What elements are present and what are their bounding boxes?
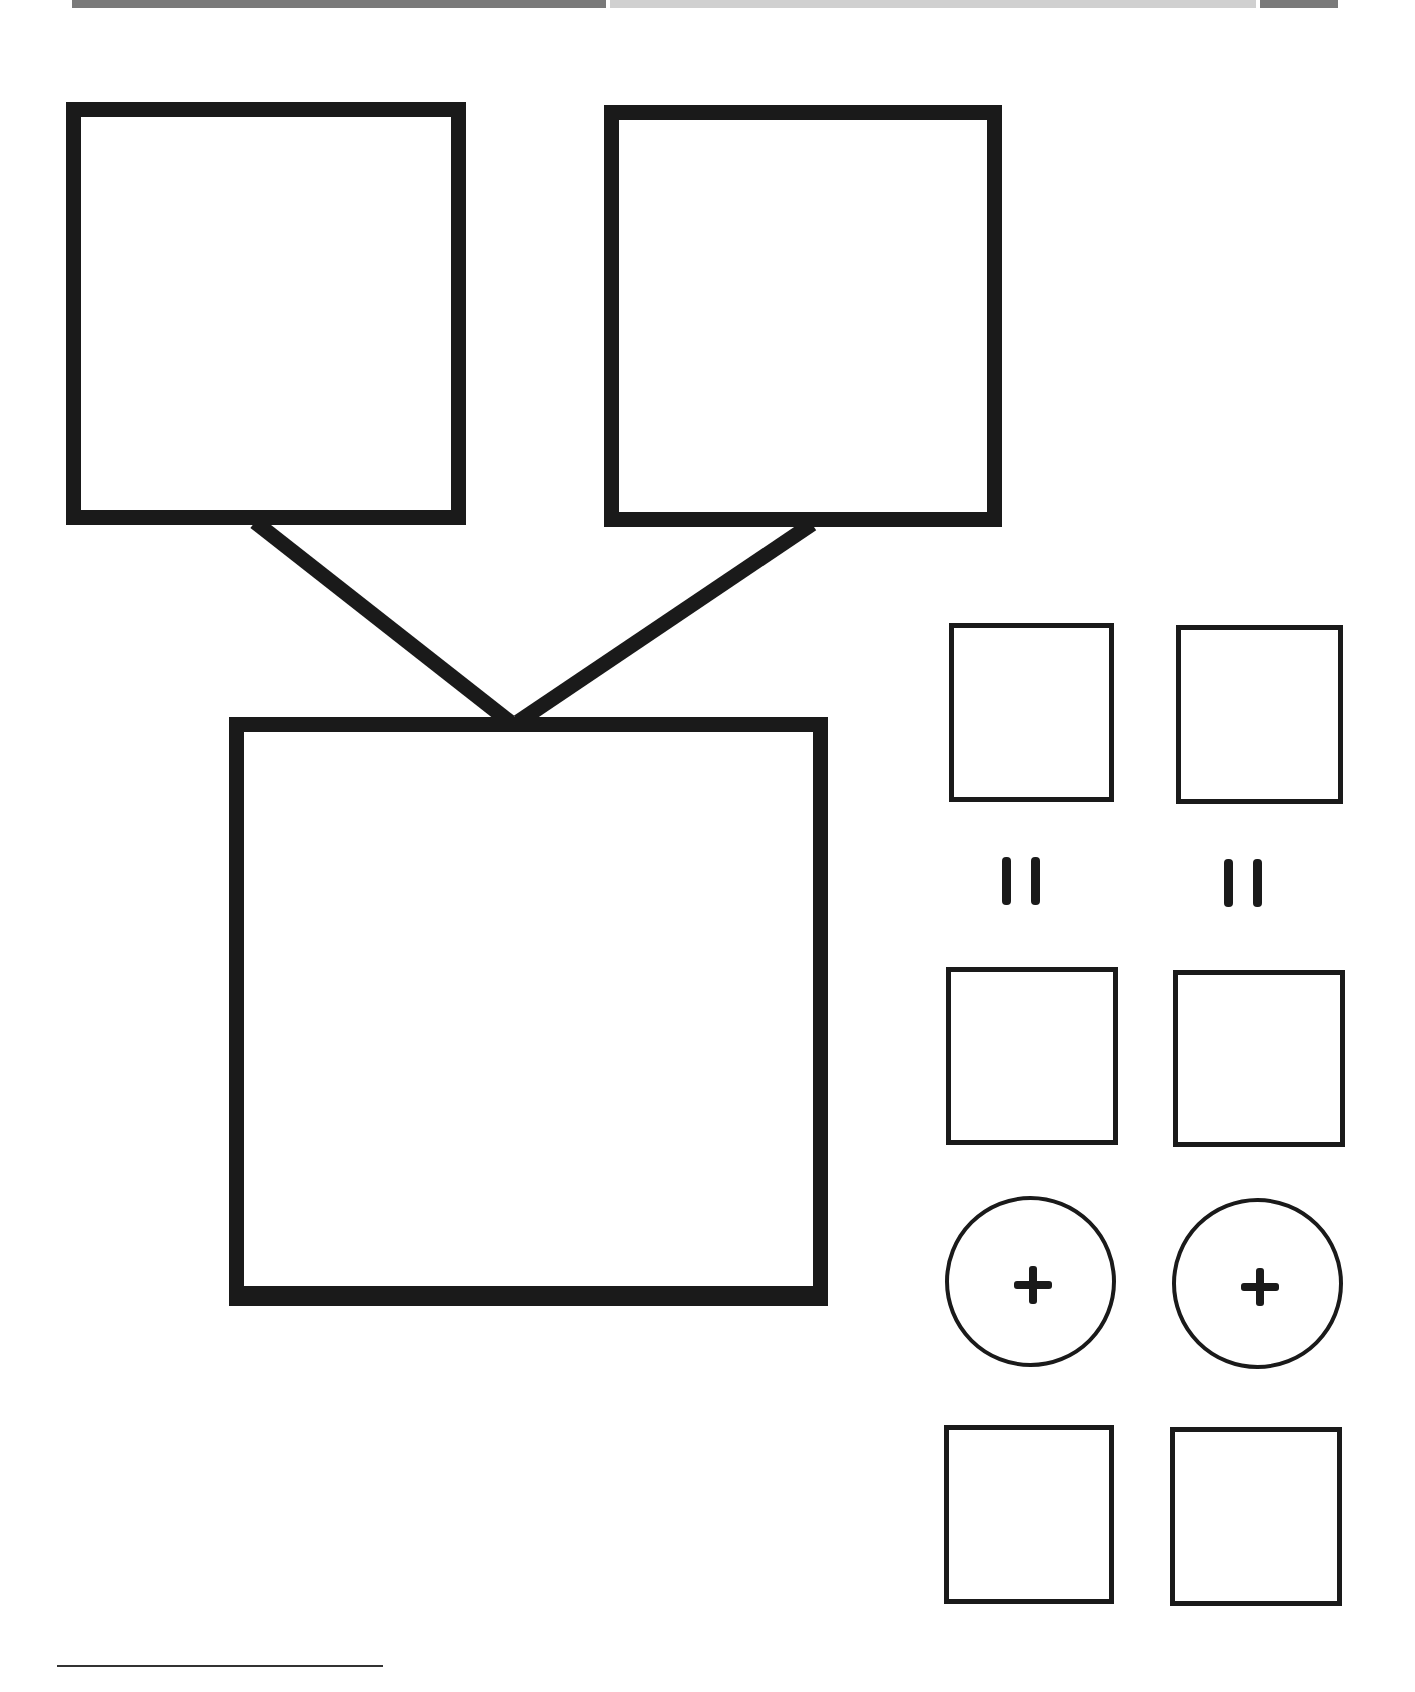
connector-right xyxy=(518,524,812,722)
part-box-right[interactable] xyxy=(604,105,1002,527)
plus-icon xyxy=(1014,1266,1052,1304)
answer-box-col2-bottom[interactable] xyxy=(1170,1427,1342,1606)
answer-box-col2-middle[interactable] xyxy=(1173,970,1345,1147)
answer-box-col1-middle[interactable] xyxy=(946,967,1118,1145)
answer-box-col2-top[interactable] xyxy=(1176,625,1343,804)
footnote-divider xyxy=(57,1665,383,1667)
answer-box-col1-top[interactable] xyxy=(949,623,1114,802)
whole-box[interactable] xyxy=(229,717,828,1306)
equals-sign-icon xyxy=(1002,857,1048,905)
operator-circle-col1 xyxy=(945,1196,1116,1367)
plus-icon xyxy=(1241,1268,1279,1306)
operator-circle-col2 xyxy=(1172,1198,1343,1369)
connector-left xyxy=(255,522,510,722)
answer-box-col1-bottom[interactable] xyxy=(944,1425,1114,1604)
equals-sign-icon xyxy=(1224,859,1270,907)
part-box-left[interactable] xyxy=(66,102,466,525)
